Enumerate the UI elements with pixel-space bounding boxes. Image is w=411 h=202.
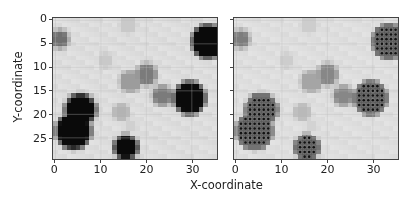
y-tick-mark	[49, 19, 52, 20]
y-tick-label: 20	[25, 108, 47, 121]
y-tick-mark	[49, 114, 52, 115]
y-tick-label: 25	[25, 132, 47, 145]
y-tick-mark	[230, 67, 233, 68]
x-tick-label: 0	[44, 163, 64, 176]
y-tick-label: 0	[25, 12, 47, 25]
y-tick-mark	[49, 90, 52, 91]
y-tick-mark	[230, 19, 233, 20]
y-tick-label: 5	[25, 36, 47, 49]
x-tick-label: 10	[271, 163, 291, 176]
y-tick-mark	[230, 114, 233, 115]
left-heatmap-image	[53, 18, 217, 159]
x-tick-label: 30	[364, 163, 384, 176]
x-tick-label: 30	[183, 163, 203, 176]
right-heatmap-image	[234, 18, 398, 159]
y-tick-label: 10	[25, 60, 47, 73]
x-tick-label: 0	[225, 163, 245, 176]
y-tick-mark	[230, 43, 233, 44]
y-tick-mark	[49, 138, 52, 139]
x-tick-label: 20	[318, 163, 338, 176]
y-axis-title: Y-coordinate	[11, 47, 25, 127]
y-tick-label: 15	[25, 84, 47, 97]
y-tick-mark	[230, 138, 233, 139]
left-heatmap-axes	[52, 17, 218, 160]
y-tick-mark	[49, 43, 52, 44]
x-tick-label: 20	[137, 163, 157, 176]
x-axis-title: X-coordinate	[190, 178, 263, 192]
x-tick-label: 10	[90, 163, 110, 176]
y-tick-mark	[230, 90, 233, 91]
y-tick-mark	[49, 67, 52, 68]
right-heatmap-axes	[233, 17, 399, 160]
